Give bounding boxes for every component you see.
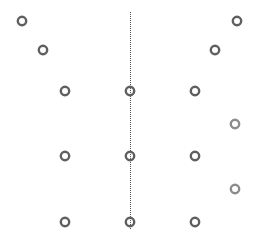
- ring-point-3: [233, 17, 241, 25]
- ring-point-13: [61, 218, 69, 226]
- ring-point-11: [191, 152, 199, 160]
- ring-point-7: [191, 87, 199, 95]
- ring-point-1: [18, 17, 26, 25]
- ring-diagram: [0, 0, 257, 240]
- ring-point-15: [191, 218, 199, 226]
- ring-point-8: [231, 120, 239, 128]
- ring-point-4: [211, 46, 219, 54]
- ring-point-5: [61, 87, 69, 95]
- ring-point-12: [231, 185, 239, 193]
- ring-point-2: [39, 46, 47, 54]
- ring-points-group: [18, 17, 241, 226]
- ring-point-9: [61, 152, 69, 160]
